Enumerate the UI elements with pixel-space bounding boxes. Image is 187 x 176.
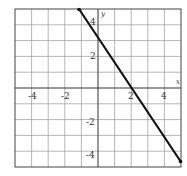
tick-y-neg4: -4: [86, 150, 95, 160]
line-endpoint-bottom: [179, 160, 183, 164]
tick-y-neg2: -2: [86, 117, 95, 127]
axes: [15, 9, 181, 167]
y-axis-label: y: [100, 10, 106, 18]
line-endpoint-top: [77, 8, 81, 12]
coordinate-plane: -4 -2 2 4 4 2 -2 -4 y x: [0, 0, 187, 176]
tick-y-2: 2: [90, 51, 96, 61]
plotted-line: [79, 9, 181, 162]
tick-x-neg4: -4: [28, 91, 37, 101]
tick-x-neg2: -2: [61, 91, 70, 101]
tick-x-4: 4: [161, 91, 167, 101]
x-axis-label: x: [176, 78, 180, 86]
tick-x-2: 2: [128, 91, 134, 101]
